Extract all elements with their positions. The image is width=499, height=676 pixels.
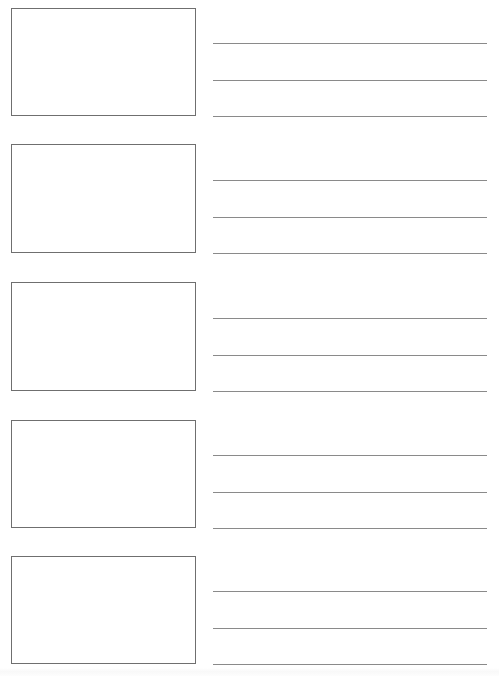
storyboard-frame-3[interactable]: [11, 282, 196, 391]
writing-rule[interactable]: [213, 43, 487, 44]
writing-rule[interactable]: [213, 80, 487, 81]
writing-rule[interactable]: [213, 455, 487, 456]
writing-rule[interactable]: [213, 116, 487, 117]
storyboard-frame-1[interactable]: [11, 8, 196, 116]
storyboard-frame-2[interactable]: [11, 144, 196, 253]
writing-rule[interactable]: [213, 528, 487, 529]
writing-rule[interactable]: [213, 217, 487, 218]
writing-rule[interactable]: [213, 591, 487, 592]
scan-edge-artifact: [0, 668, 499, 676]
writing-rule[interactable]: [213, 628, 487, 629]
writing-rule[interactable]: [213, 253, 487, 254]
writing-rule[interactable]: [213, 180, 487, 181]
writing-rule[interactable]: [213, 492, 487, 493]
storyboard-page: [0, 0, 499, 676]
storyboard-frame-5[interactable]: [11, 556, 196, 664]
writing-rule[interactable]: [213, 355, 487, 356]
writing-rule[interactable]: [213, 318, 487, 319]
writing-rule[interactable]: [213, 391, 487, 392]
writing-rule[interactable]: [213, 664, 487, 665]
storyboard-frame-4[interactable]: [11, 420, 196, 528]
